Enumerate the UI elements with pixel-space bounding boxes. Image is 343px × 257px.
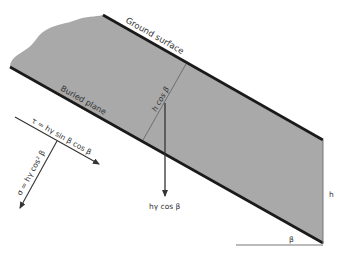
normal-stress-label: σ = hγ cos² β bbox=[15, 149, 47, 197]
height-label: h bbox=[329, 190, 334, 199]
infinite-slope-diagram: Ground surface Buried plane h cos β hγ c… bbox=[0, 0, 343, 257]
shear-stress-arrow bbox=[15, 117, 99, 164]
angle-label: β bbox=[289, 235, 294, 244]
vertical-weight-label: hγ cos β bbox=[149, 202, 181, 211]
